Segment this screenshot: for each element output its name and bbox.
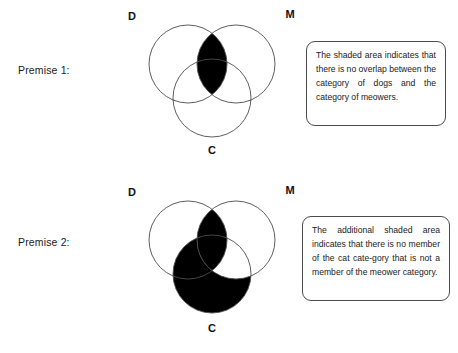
premise-1-callout: The shaded area indicates that there is … [306, 41, 446, 126]
circle-label-d: D [128, 186, 136, 198]
circle-label-m: M [285, 8, 294, 20]
premise-2-label: Premise 2: [18, 236, 70, 248]
shaded-region-c-not-m [122, 182, 302, 337]
premise-2-row: Premise 2: D [0, 176, 458, 353]
premise-1-venn-diagram: D M C [122, 6, 302, 161]
premise-1-label: Premise 1: [18, 64, 70, 76]
circle-label-c: C [208, 144, 216, 156]
premise-1-callout-text: The shaded area indicates that there is … [316, 49, 436, 105]
premise-2-callout: The additional shaded area indicates tha… [302, 216, 450, 301]
circle-label-m: M [285, 184, 294, 196]
circle-label-c: C [208, 322, 216, 334]
premise-1-row: Premise 1: D M C The shaded area indica [0, 0, 458, 176]
premise-2-venn-diagram: D M C [122, 182, 302, 337]
circle-label-d: D [128, 10, 136, 22]
premise-2-callout-text: The additional shaded area indicates tha… [312, 224, 440, 280]
